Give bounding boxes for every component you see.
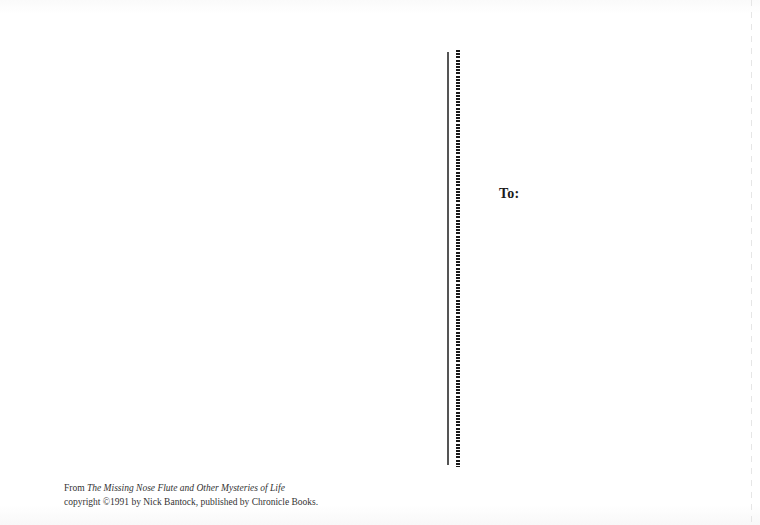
divider-solid-line [447, 52, 449, 465]
edge-faint-dashed-line [751, 0, 752, 525]
book-title: The Missing Nose Flute and Other Mysteri… [87, 483, 285, 493]
credits-block: From The Missing Nose Flute and Other My… [64, 481, 318, 509]
credits-line-2: copyright ©1991 by Nick Bantock, publish… [64, 495, 318, 509]
credits-line-1: From The Missing Nose Flute and Other My… [64, 481, 318, 495]
postcard-back: To: From The Missing Nose Flute and Othe… [0, 0, 760, 525]
address-label: To: [499, 186, 519, 202]
credits-prefix: From [64, 483, 87, 493]
divider-dotted-line [456, 50, 460, 467]
